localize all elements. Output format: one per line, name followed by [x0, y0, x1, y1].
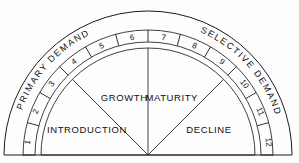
- sector-label-decline: DECLINE: [186, 124, 231, 135]
- band-label-primary: PRIMARY DEMAND: [15, 27, 92, 111]
- scale-number: 9: [217, 57, 226, 67]
- tick-mark: [40, 93, 50, 99]
- sector-label-growth: GROWTH: [101, 92, 148, 103]
- tick-mark: [257, 123, 269, 126]
- sector-labels: INTRODUCTIONGROWTHMATURITYDECLINE: [47, 92, 232, 135]
- scale-number: 11: [255, 106, 267, 118]
- tick-mark: [228, 67, 236, 75]
- divider-135: [72, 79, 148, 155]
- scale-number: 3: [47, 79, 57, 88]
- tick-mark: [205, 47, 211, 57]
- sector-label-introduction: INTRODUCTION: [47, 124, 127, 135]
- product-life-cycle-diagram: 123456789101112 PRIMARY DEMANDSELECTIVE …: [0, 0, 299, 163]
- divider-45: [148, 79, 224, 155]
- scale-number: 4: [70, 56, 79, 66]
- diagram-canvas: 123456789101112 PRIMARY DEMANDSELECTIVE …: [0, 0, 299, 163]
- tick-mark: [116, 34, 119, 46]
- scale-number: 8: [191, 41, 199, 51]
- scale-number: 12: [263, 137, 273, 148]
- tick-mark: [27, 123, 39, 126]
- scale-number: 2: [31, 107, 41, 115]
- scale-number: 7: [161, 33, 167, 43]
- tick-mark: [60, 67, 68, 75]
- scale-number: 6: [129, 33, 135, 43]
- sector-label-maturity: MATURITY: [145, 92, 198, 103]
- scale-number: 1: [23, 139, 33, 145]
- tick-mark: [86, 47, 92, 57]
- scale-number: 5: [98, 41, 106, 51]
- tick-mark: [246, 93, 256, 99]
- tick-mark: [177, 34, 180, 46]
